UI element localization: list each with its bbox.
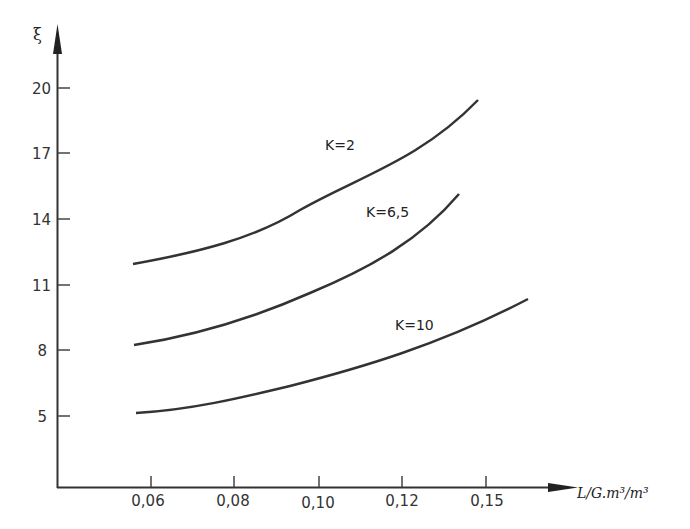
svg-text:11: 11 [32, 277, 51, 295]
svg-text:0,08: 0,08 [216, 492, 249, 510]
svg-text:14: 14 [32, 211, 51, 229]
x-tick-labels: 0,06 0,08 0,10 0,12 0,15 [131, 492, 503, 512]
svg-text:0,10: 0,10 [301, 494, 334, 512]
svg-text:8: 8 [37, 342, 47, 360]
svg-text:0,15: 0,15 [470, 492, 503, 510]
curve-k2 [133, 100, 478, 264]
y-axis-label: ξ [33, 25, 42, 44]
curve-k10 [136, 299, 528, 413]
svg-text:5: 5 [37, 408, 47, 426]
chart: ξ L/G.m³/m³ 20 17 14 11 8 5 0,06 0,08 0,… [0, 0, 690, 529]
svg-text:0,12: 0,12 [385, 492, 418, 510]
x-axis-arrow-icon [548, 483, 578, 492]
svg-text:0,06: 0,06 [131, 492, 164, 510]
y-axis-arrow-icon [53, 24, 62, 54]
svg-text:20: 20 [32, 80, 51, 98]
x-axis-label: L/G.m³/m³ [576, 485, 649, 501]
y-ticks [58, 88, 70, 416]
curve-label-k6-5: K=6,5 [366, 204, 409, 220]
curve-label-k10: K=10 [395, 317, 434, 333]
svg-text:17: 17 [32, 145, 51, 163]
y-tick-labels: 20 17 14 11 8 5 [32, 80, 51, 426]
curve-label-k2: K=2 [325, 137, 355, 153]
x-ticks [151, 476, 486, 487]
